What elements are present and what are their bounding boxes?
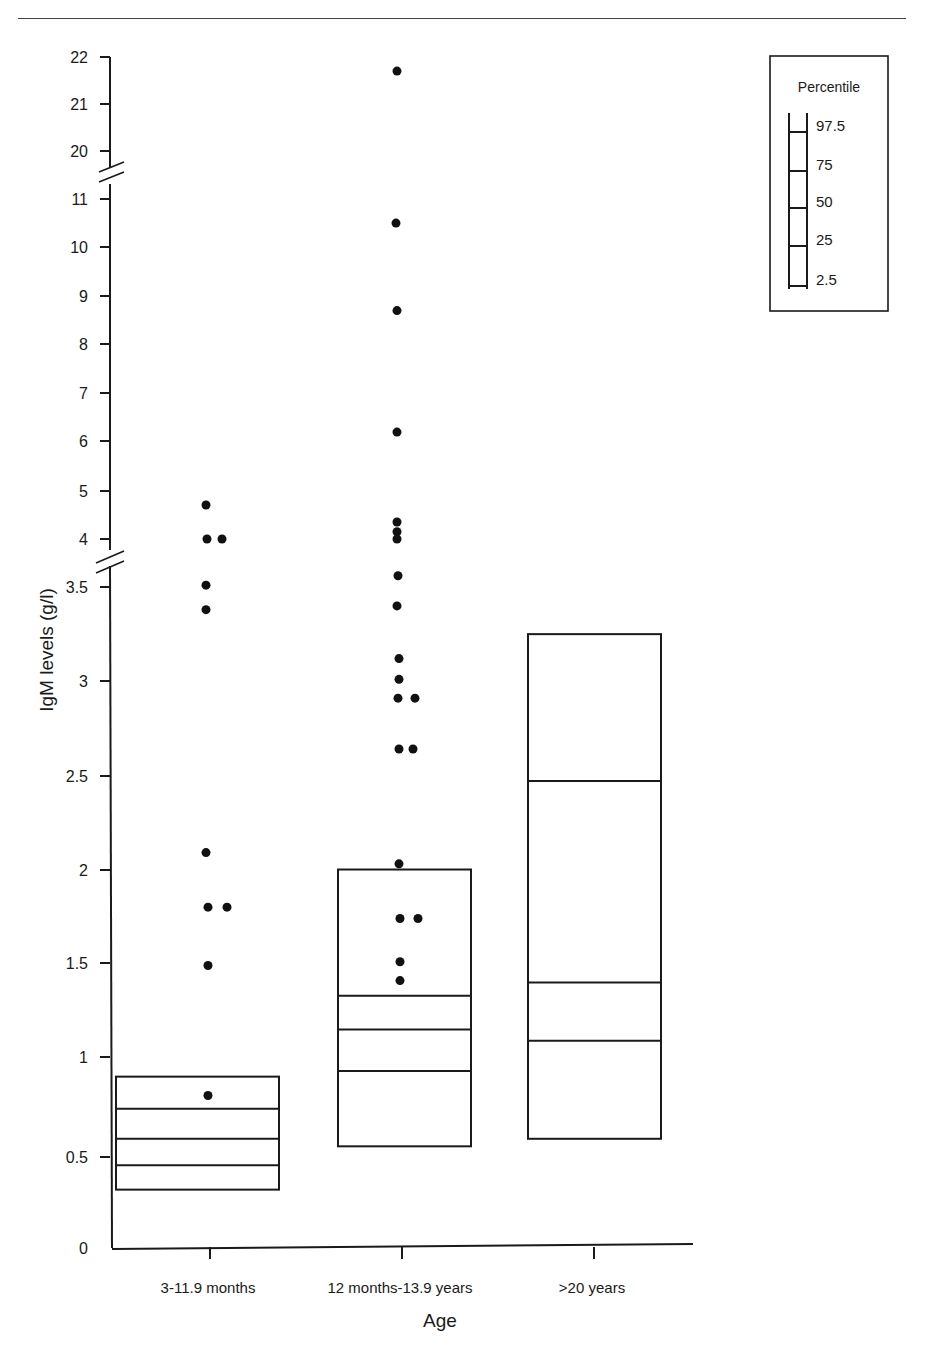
percentile-box	[338, 870, 471, 1147]
y-tick-label: 10	[70, 239, 88, 256]
legend-title: Percentile	[798, 79, 860, 95]
y-tick-label: 2	[79, 862, 88, 879]
y-tick-label: 7	[79, 385, 88, 402]
legend: Percentile 97.57550252.5	[770, 56, 888, 311]
y-axis-ticks: 00.511.522.533.54567891011202122	[66, 49, 110, 1257]
x-axis-ticks: 3-11.9 months12 months-13.9 years>20 yea…	[161, 1247, 626, 1296]
y-tick-label: 2.5	[66, 768, 88, 785]
data-point	[396, 976, 405, 985]
x-category-label: >20 years	[559, 1279, 625, 1296]
data-point	[394, 571, 403, 580]
x-axis-title: Age	[423, 1310, 457, 1331]
legend-entry: 50	[816, 193, 833, 210]
y-tick-label: 22	[70, 49, 88, 66]
legend-entry: 2.5	[816, 271, 837, 288]
y-axis-title: IgM levels (g/l)	[36, 588, 57, 712]
data-points	[202, 67, 423, 1100]
data-point	[393, 601, 402, 610]
y-tick-label: 9	[79, 288, 88, 305]
data-point	[204, 961, 213, 970]
y-tick-label: 8	[79, 336, 88, 353]
data-point	[218, 535, 227, 544]
data-point	[393, 428, 402, 437]
y-tick-label: 6	[79, 433, 88, 450]
data-point	[393, 67, 402, 76]
data-point	[411, 694, 420, 703]
y-tick-label: 3.5	[66, 579, 88, 596]
data-point	[395, 859, 404, 868]
y-tick-label: 1.5	[66, 955, 88, 972]
y-axis	[96, 57, 124, 1248]
data-point	[204, 903, 213, 912]
data-point	[414, 914, 423, 923]
y-tick-label: 0.5	[66, 1149, 88, 1166]
y-tick-label: 4	[79, 531, 88, 548]
data-point	[395, 745, 404, 754]
percentile-box	[116, 1077, 279, 1190]
data-point	[223, 903, 232, 912]
data-point	[393, 535, 402, 544]
y-tick-label: 11	[71, 191, 88, 208]
y-tick-label: 20	[70, 143, 88, 160]
legend-entry: 25	[816, 231, 833, 248]
data-point	[396, 957, 405, 966]
x-category-label: 3-11.9 months	[161, 1279, 256, 1296]
data-point	[202, 581, 211, 590]
data-point	[393, 306, 402, 315]
data-point	[393, 517, 402, 526]
x-category-label: 12 months-13.9 years	[327, 1279, 472, 1296]
y-tick-label: 5	[79, 483, 88, 500]
data-point	[409, 745, 418, 754]
y-tick-label: 3	[79, 673, 88, 690]
legend-entry: 97.5	[816, 117, 845, 134]
data-point	[392, 219, 401, 228]
percentile-box	[528, 634, 661, 1139]
data-point	[396, 914, 405, 923]
igm-percentile-chart: 00.511.522.533.54567891011202122 3-11.9 …	[0, 0, 925, 1349]
data-point	[395, 654, 404, 663]
data-point	[203, 535, 212, 544]
data-point	[395, 675, 404, 684]
y-tick-label: 0	[79, 1240, 88, 1257]
data-point	[202, 848, 211, 857]
data-point	[394, 694, 403, 703]
y-tick-label: 1	[79, 1049, 88, 1066]
legend-entry: 75	[816, 156, 833, 173]
data-point	[202, 605, 211, 614]
percentile-boxes	[116, 634, 661, 1189]
data-point	[204, 1091, 213, 1100]
data-point	[202, 500, 211, 509]
y-tick-label: 21	[70, 96, 88, 113]
